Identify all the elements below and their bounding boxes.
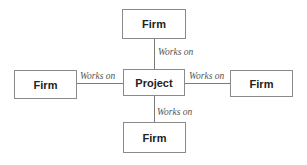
node-label: Firm (143, 132, 167, 144)
edge-label-top: Works on (158, 47, 193, 57)
node-label: Firm (34, 79, 58, 91)
edge-bottom (154, 96, 155, 122)
edge-left (77, 83, 123, 84)
edge-right (185, 83, 230, 84)
edge-label-right: Works on (189, 71, 224, 81)
node-project: Project (123, 69, 185, 96)
edge-top (154, 39, 155, 69)
node-firm-top: Firm (122, 9, 186, 39)
node-firm-left: Firm (14, 70, 77, 99)
node-firm-right: Firm (230, 70, 293, 97)
node-firm-bottom: Firm (123, 122, 186, 153)
edge-label-left: Works on (80, 71, 115, 81)
edge-label-bottom: Works on (157, 107, 192, 117)
node-label: Firm (250, 78, 274, 90)
node-label: Project (135, 77, 172, 89)
node-label: Firm (142, 18, 166, 30)
